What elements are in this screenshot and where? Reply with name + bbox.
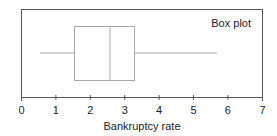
x-axis-tick-labels: 0 1 2 3 4 5 6 7 [18,104,265,116]
iqr-box [75,27,135,81]
tick-label: 3 [122,104,128,116]
tick-label: 1 [53,104,59,116]
tick-label: 2 [87,104,93,116]
box-plot-chart: 0 1 2 3 4 5 6 7 Box plot Bankruptcy rate [0,0,277,136]
tick-label: 5 [190,104,196,116]
tick-label: 7 [259,104,265,116]
x-axis-label: Bankruptcy rate [103,120,180,132]
tick-label: 4 [156,104,162,116]
tick-label: 0 [18,104,24,116]
chart-title: Box plot [211,17,251,29]
tick-label: 6 [225,104,231,116]
